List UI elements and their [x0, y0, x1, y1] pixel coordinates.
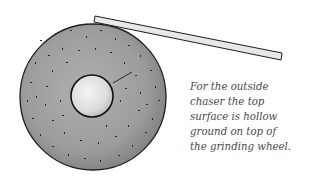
grinding-wheel: [20, 24, 166, 170]
caption-line: surface is hollow: [190, 109, 299, 124]
caption-line: ground on top of: [190, 124, 299, 139]
figure-caption: For the outside chaser the top surface i…: [190, 79, 299, 154]
caption-line: chaser the top: [190, 94, 299, 109]
caption-line: the grinding wheel.: [190, 139, 299, 154]
wheel-hub: [71, 75, 113, 117]
caption-line: For the outside: [190, 79, 299, 94]
